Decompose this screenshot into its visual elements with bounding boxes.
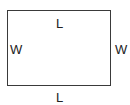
left-width-label: W	[10, 43, 22, 56]
right-width-label: W	[115, 43, 127, 56]
top-length-label: L	[56, 17, 63, 30]
bottom-length-label: L	[56, 91, 63, 104]
